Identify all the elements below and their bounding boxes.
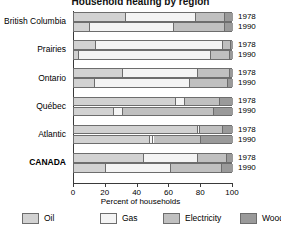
bar-segment-oil	[74, 164, 106, 172]
legend-label: Oil	[44, 213, 54, 223]
stacked-bar	[73, 97, 232, 107]
legend-swatch-wood	[240, 213, 257, 224]
stacked-bar	[73, 135, 232, 145]
bar-segment-electricity	[154, 136, 202, 144]
year-label: 1990	[238, 78, 256, 87]
bar-group	[73, 125, 232, 145]
chart-legend: OilGasElectricityWood	[0, 211, 281, 229]
x-tick-label: 0	[61, 188, 85, 197]
region-label: Atlantic	[0, 129, 66, 139]
bar-segment-oil	[74, 69, 123, 77]
bar-segment-wood	[225, 23, 233, 31]
bar-group	[73, 40, 232, 60]
bar-segment-wood	[228, 79, 233, 87]
year-label: 1990	[238, 22, 256, 31]
year-label: 1990	[238, 50, 256, 59]
bar-group	[73, 68, 232, 88]
year-label: 1990	[238, 135, 256, 144]
stacked-bar	[73, 40, 232, 50]
stacked-bar	[73, 12, 232, 22]
bar-segment-wood	[220, 98, 233, 106]
bar-segment-gas	[123, 69, 198, 77]
bar-segment-electricity	[223, 41, 231, 49]
stacked-bar	[73, 163, 232, 173]
region-label: Québec	[0, 101, 66, 111]
year-label: 1990	[238, 106, 256, 115]
bar-segment-electricity	[211, 51, 230, 59]
bar-segment-gas	[106, 164, 171, 172]
legend-item-wood[interactable]: Wood	[240, 211, 281, 225]
bar-segment-oil	[74, 126, 198, 134]
stacked-bar	[73, 153, 232, 163]
year-label: 1978	[238, 125, 256, 134]
year-label: 1990	[238, 163, 256, 172]
stacked-bar	[73, 22, 232, 32]
stacked-bar	[73, 78, 232, 88]
bar-segment-wood	[201, 136, 233, 144]
bar-segment-gas	[126, 13, 196, 21]
year-label: 1978	[238, 96, 256, 105]
plot-area	[73, 11, 232, 183]
bar-segment-oil	[74, 23, 90, 31]
bar-segment-electricity	[123, 108, 214, 116]
region-label: CANADA	[0, 157, 66, 167]
legend-item-oil[interactable]: Oil	[22, 211, 54, 225]
stacked-bar	[73, 125, 232, 135]
household-heating-chart: Household heating by region British Colu…	[0, 0, 281, 233]
bar-segment-wood	[225, 13, 233, 21]
bar-segment-oil	[74, 136, 150, 144]
x-tick-label: 40	[125, 188, 149, 197]
bar-segment-electricity	[198, 154, 227, 162]
bar-segment-electricity	[200, 126, 224, 134]
legend-label: Wood	[262, 213, 281, 223]
bar-segment-gas	[144, 154, 198, 162]
bar-segment-oil	[74, 13, 126, 21]
year-label: 1978	[238, 40, 256, 49]
bar-segment-wood	[227, 154, 233, 162]
region-label: Prairies	[0, 44, 66, 54]
bar-segment-gas	[90, 23, 174, 31]
stacked-bar	[73, 50, 232, 60]
legend-label: Electricity	[185, 213, 221, 223]
x-tick	[168, 183, 169, 187]
bar-segment-wood	[230, 51, 233, 59]
bar-segment-electricity	[190, 79, 228, 87]
bar-segment-oil	[74, 154, 144, 162]
year-label: 1978	[238, 12, 256, 21]
bar-segment-electricity	[185, 98, 220, 106]
legend-swatch-oil	[22, 213, 39, 224]
x-tick	[137, 183, 138, 187]
bar-group	[73, 12, 232, 32]
bar-segment-wood	[214, 108, 233, 116]
x-axis-title: Percent of households	[0, 197, 281, 206]
bar-segment-gas	[96, 41, 223, 49]
chart-title: Household heating by region	[0, 0, 281, 7]
bar-segment-electricity	[198, 69, 230, 77]
bar-segment-wood	[231, 41, 233, 49]
bar-group	[73, 97, 232, 117]
year-label: 1978	[238, 153, 256, 162]
legend-item-electricity[interactable]: Electricity	[163, 211, 221, 225]
stacked-bar	[73, 68, 232, 78]
x-tick	[200, 183, 201, 187]
x-tick-label: 60	[156, 188, 180, 197]
bar-segment-oil	[74, 108, 114, 116]
bar-segment-gas	[114, 108, 124, 116]
bar-segment-oil	[74, 98, 176, 106]
bar-segment-electricity	[196, 13, 225, 21]
x-tick-label: 100	[220, 188, 244, 197]
x-tick-label: 80	[188, 188, 212, 197]
bar-segment-oil	[74, 41, 96, 49]
legend-swatch-electricity	[163, 213, 180, 224]
x-tick	[73, 183, 74, 187]
bar-group	[73, 153, 232, 173]
stacked-bar	[73, 107, 232, 117]
bar-segment-electricity	[171, 164, 222, 172]
x-tick-label: 20	[93, 188, 117, 197]
year-label: 1978	[238, 68, 256, 77]
bar-segment-gas	[79, 51, 211, 59]
bar-segment-electricity	[174, 23, 225, 31]
legend-label: Gas	[122, 213, 138, 223]
region-label: Ontario	[0, 73, 66, 83]
legend-item-gas[interactable]: Gas	[100, 211, 138, 225]
